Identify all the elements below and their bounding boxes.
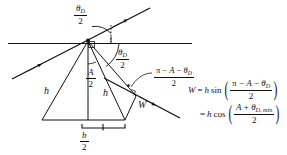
eq2-equals: = — [200, 109, 205, 119]
a-denominator: 2 — [86, 79, 96, 89]
label-h-right: h — [103, 88, 108, 98]
eq2-function: cos — [212, 109, 228, 119]
eq2-denominator: 2 — [234, 115, 274, 125]
angle-dot-W — [127, 84, 130, 87]
theta-denominator-mid: 2 — [116, 60, 129, 70]
incoming-ray — [12, 40, 88, 79]
incoming-ray-arrow — [28, 65, 40, 71]
theta-subscript-top: D — [80, 8, 84, 14]
eq1-close-paren: ) — [274, 82, 278, 97]
angle-arc-half-A — [88, 62, 96, 64]
theta-denominator-top: 2 — [74, 16, 87, 26]
eq1-equals: = — [198, 85, 203, 95]
eq1-function: sin — [209, 85, 223, 95]
prism-beam-width-figure: θD 2 θD 2 A 2 π − A − θD 2 h h W b 2 — [0, 0, 287, 155]
label-theta-d-over-2-top: θD 2 — [74, 4, 87, 26]
eq2-num-plus: + — [242, 102, 252, 112]
eq1-num-mid: − — [252, 78, 262, 88]
eq2-close-paren: ) — [276, 106, 280, 121]
label-h-left: h — [44, 86, 49, 96]
equation-line-2: = h cos ( A + θD, min 2 ) — [188, 102, 287, 126]
theta-subscript-mid: D — [122, 52, 126, 58]
eq2-open-paren: ( — [229, 106, 233, 121]
pi-expr-pre: π − — [156, 65, 169, 75]
equation-block: W = h sin ( π − A − θD 2 ) = h cos ( A +… — [188, 78, 287, 126]
eq1-num-theta-sub: D — [266, 83, 270, 89]
label-theta-d-over-2-mid: θD 2 — [116, 48, 129, 70]
b-brace — [82, 124, 125, 128]
eq1-open-paren: ( — [225, 82, 229, 97]
b-numerator: b — [80, 131, 89, 142]
pi-expr-theta-sub: D — [188, 70, 192, 76]
equation-line-1: W = h sin ( π − A − θD 2 ) — [188, 78, 287, 102]
pi-expr-mid: − — [175, 65, 184, 75]
eq1-denominator: 2 — [230, 91, 272, 101]
eq2-num-theta-sub: D, min — [256, 107, 273, 113]
h-left-side — [42, 41, 88, 120]
a-numerator: A — [86, 68, 96, 79]
outgoing-ray-upper-arrow — [112, 20, 126, 27]
label-a-over-2: A 2 — [86, 68, 96, 89]
W-segment — [125, 96, 136, 120]
eq1-lhs: W — [188, 85, 196, 95]
label-b-over-2: b 2 — [80, 131, 89, 152]
eq1-num-pre: π − — [232, 78, 246, 88]
pi-expr-leader — [131, 73, 152, 87]
label-w: W — [138, 100, 146, 110]
b-denominator: 2 — [80, 142, 89, 152]
